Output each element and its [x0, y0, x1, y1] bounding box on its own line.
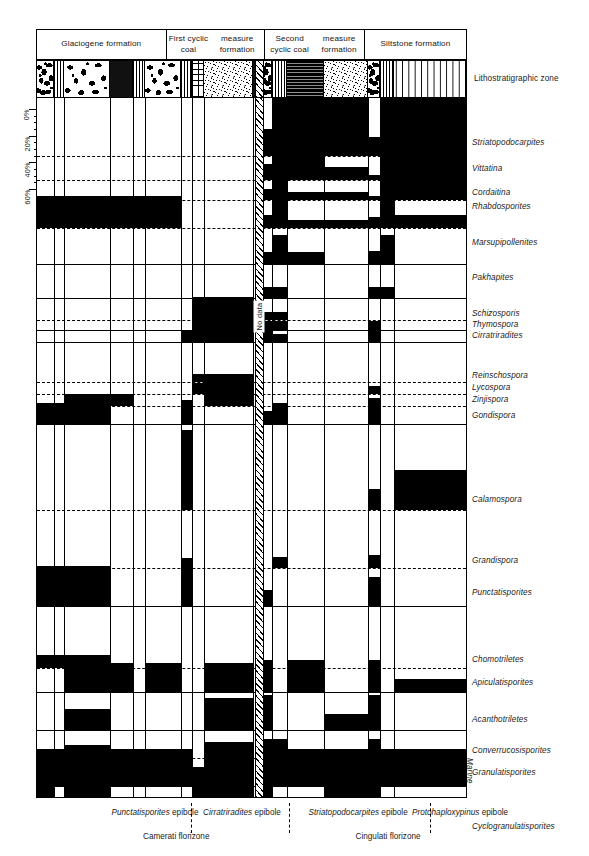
abundance-bar	[368, 767, 380, 798]
taxon-label: Punctatisporites	[472, 588, 532, 597]
abundance-bar	[287, 192, 324, 200]
abundance-bar	[264, 215, 272, 228]
abundance-bar	[368, 555, 380, 568]
abundance-bar	[110, 663, 133, 692]
abundance-bar	[264, 189, 272, 200]
abundance-bar	[272, 191, 287, 228]
lithology-segment-siltstone	[394, 61, 466, 97]
abundance-bar	[64, 709, 110, 730]
taxon-label: Reinschospora	[472, 371, 528, 380]
abundance-bar	[287, 252, 324, 264]
abundance-bar	[204, 698, 253, 730]
taxon-baseline	[37, 342, 466, 343]
no-data-label: No data	[254, 301, 265, 333]
abundance-bar	[264, 695, 272, 730]
percent-tick-label: 20%	[23, 136, 32, 151]
taxon-label: Acanthotriletes	[472, 715, 528, 724]
lithology-segment-striped-diamictite	[133, 61, 145, 97]
marine-label: Marine	[465, 758, 474, 784]
epibole-suffix: epibole	[170, 808, 199, 817]
lithostratigraphic-zone-label: Lithostratigraphic zone	[474, 74, 559, 83]
taxon-label: Calamospora	[472, 495, 522, 504]
abundance-bar	[272, 312, 287, 320]
abundance-bar	[287, 148, 324, 180]
abundance-bar	[287, 220, 324, 228]
taxon-label: Cirratriradites	[472, 331, 523, 340]
abundance-bar	[368, 137, 380, 156]
abundance-bar	[380, 287, 394, 298]
abundance-bar	[264, 660, 272, 692]
taxon-baseline	[37, 228, 466, 229]
taxon-baseline	[37, 692, 466, 693]
lithostratigraphic-strip	[36, 60, 467, 98]
lithology-segment-striped-diamictite	[380, 61, 394, 97]
lithology-segment-dark-shale	[110, 61, 133, 97]
abundance-bar	[368, 386, 380, 394]
abundance-bar	[287, 660, 324, 692]
percent-tick-label: 0%	[23, 110, 32, 121]
abundance-bar	[380, 235, 394, 264]
abundance-bar	[368, 577, 380, 606]
abundance-bar	[37, 196, 133, 228]
taxon-label: Chomotriletes	[472, 655, 524, 664]
no-data-band: No data	[255, 98, 265, 797]
taxon-baseline	[37, 510, 466, 511]
abundance-bar	[264, 164, 272, 180]
abundance-bar	[204, 378, 253, 394]
epibole-label: Cirratriradites epibole	[203, 808, 281, 817]
abundance-bar	[145, 196, 181, 228]
abundance-bar	[204, 767, 253, 798]
biozone-footer: Punctatisporites epiboleCirratriradites …	[0, 798, 589, 856]
abundance-bar	[324, 98, 368, 156]
taxon-baseline	[37, 264, 466, 265]
lithology-segment-sandstone	[204, 61, 253, 97]
abundance-bar	[204, 394, 253, 406]
abundance-bar	[192, 374, 204, 382]
abundance-bar	[324, 167, 368, 180]
florizone-label: Camerati florizone	[143, 832, 209, 841]
epibole-taxon: Protohaploxypinus	[412, 808, 479, 817]
abundance-bar	[324, 714, 368, 730]
abundance-bar	[181, 430, 192, 510]
epibole-taxon: Striatopodocarpites	[309, 808, 380, 817]
epibole-suffix: epibole	[252, 808, 281, 817]
taxon-baseline	[37, 606, 466, 607]
formation-header-line: Glaciogene formation	[61, 39, 141, 49]
abundance-bar	[368, 660, 380, 692]
taxon-label: Cordaitina	[472, 188, 510, 197]
taxon-label: Striatopodocarpites	[472, 138, 544, 147]
lithology-segment-conglomerate	[64, 61, 110, 97]
taxon-label: Lycospora	[472, 383, 511, 392]
abundance-bar	[324, 220, 368, 228]
taxon-baseline	[37, 730, 466, 731]
taxon-label: Grandispora	[472, 556, 518, 565]
taxon-label: Pakhapites	[472, 273, 514, 282]
formation-header-cell: Glaciogene formation	[37, 30, 166, 59]
percent-tick-label: 40%	[23, 163, 32, 178]
epibole-separator	[289, 803, 290, 833]
taxon-label: Thymospora	[472, 320, 519, 329]
no-data-band-lithology	[255, 61, 265, 97]
epibole-taxon: Cirratriradites	[203, 808, 252, 817]
abundance-bar	[368, 695, 380, 730]
taxon-label: Zinjispora	[472, 395, 509, 404]
abundance-bar	[272, 749, 287, 786]
formation-header-cell: First cyclic coalmeasure formation	[166, 30, 265, 59]
abundance-bar	[264, 312, 272, 320]
abundance-bar	[181, 558, 192, 606]
abundance-bar	[394, 679, 466, 692]
abundance-bar	[368, 175, 380, 180]
abundance-bar	[272, 287, 287, 298]
lithology-segment-coal-measure	[192, 61, 204, 97]
abundance-bar	[181, 331, 192, 342]
percent-tick-label: 60%	[23, 190, 32, 205]
epibole-label: Punctatisporites epibole	[112, 808, 199, 817]
taxon-baseline	[37, 424, 466, 425]
abundance-bar	[368, 196, 380, 200]
abundance-bar	[64, 590, 110, 606]
lithology-segment-conglomerate	[368, 61, 380, 97]
taxon-label: Granulatisporites	[472, 768, 536, 777]
taxon-label: Rhabdosporites	[472, 202, 531, 211]
taxon-label: Marsupipollenites	[472, 238, 537, 247]
formation-header-line: Second cyclic coal	[265, 34, 314, 55]
